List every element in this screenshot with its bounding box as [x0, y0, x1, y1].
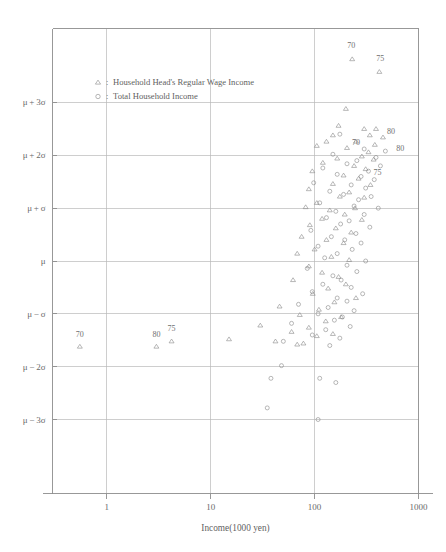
- xtick-label: 1: [105, 502, 110, 512]
- data-point-circle: [374, 155, 378, 159]
- data-point-circle: [326, 306, 330, 310]
- point-annotation: 70: [347, 41, 355, 50]
- point-annotation: 75: [168, 324, 176, 333]
- data-point-circle: [297, 302, 301, 306]
- data-point-circle: [350, 247, 354, 251]
- legend-separator: :: [106, 77, 108, 87]
- data-point-triangle: [336, 275, 341, 279]
- data-point-circle: [335, 252, 339, 256]
- data-point-circle: [321, 282, 325, 286]
- data-point-circle: [362, 147, 366, 151]
- data-point-circle: [349, 183, 353, 187]
- data-point-circle: [335, 172, 339, 176]
- data-point-triangle: [299, 234, 304, 238]
- point-annotation: 70: [352, 138, 360, 147]
- data-point-triangle: [297, 313, 302, 317]
- data-point-triangle: [347, 190, 352, 194]
- data-point-circle: [328, 344, 332, 348]
- data-point-triangle: [332, 300, 337, 304]
- data-point-triangle: [362, 195, 367, 199]
- data-point-triangle: [277, 304, 282, 308]
- data-point-triangle: [335, 156, 340, 160]
- data-point-circle: [338, 336, 342, 340]
- data-point-triangle: [306, 187, 311, 191]
- data-point-triangle: [324, 238, 329, 242]
- data-point-circle: [312, 181, 316, 185]
- data-point-circle: [366, 169, 370, 173]
- ytick-label: μ + 3σ: [23, 97, 46, 107]
- point-annotation: 80: [396, 144, 404, 153]
- data-point-triangle: [323, 319, 328, 323]
- data-point-triangle: [326, 286, 331, 290]
- data-point-circle: [328, 189, 332, 193]
- data-point-circle: [352, 309, 356, 313]
- data-point-triangle: [289, 330, 294, 334]
- data-point-triangle: [314, 144, 319, 148]
- data-point-triangle: [77, 344, 82, 348]
- data-point-circle: [335, 296, 339, 300]
- data-point-triangle: [314, 334, 319, 338]
- data-point-triangle: [169, 339, 174, 343]
- legend-circle-icon: [96, 94, 100, 98]
- data-point-triangle: [258, 323, 263, 327]
- legend-separator: :: [106, 91, 108, 101]
- data-point-circle: [345, 162, 349, 166]
- data-point-circle: [348, 325, 352, 329]
- data-point-circle: [349, 285, 353, 289]
- data-point-triangle: [307, 223, 312, 227]
- data-point-triangle: [316, 307, 321, 311]
- data-point-triangle: [320, 216, 325, 220]
- data-point-triangle: [366, 150, 371, 154]
- legend-label: Household Head's Regular Wage Income: [113, 77, 254, 87]
- data-point-circle: [357, 198, 361, 202]
- data-point-triangle: [350, 57, 355, 61]
- data-point-circle: [310, 333, 314, 337]
- data-point-triangle: [154, 344, 159, 348]
- data-point-triangle: [330, 182, 335, 186]
- legend-triangle-icon: [95, 80, 100, 84]
- data-point-circle: [323, 256, 327, 260]
- data-point-circle: [331, 274, 335, 278]
- data-point-triangle: [343, 282, 348, 286]
- data-point-circle: [359, 174, 363, 178]
- ytick-label: μ + σ: [27, 203, 46, 213]
- data-point-circle: [329, 235, 333, 239]
- plot-canvas: μ + 3σμ + 2σμ + σμμ − σμ − 2σμ − 3σ11010…: [0, 0, 446, 552]
- data-point-triangle: [380, 135, 385, 139]
- point-annotation: 70: [76, 330, 84, 339]
- point-annotation: 75: [373, 168, 381, 177]
- point-annotation: 75: [376, 54, 384, 63]
- data-point-circle: [345, 299, 349, 303]
- data-point-circle: [316, 244, 320, 248]
- data-point-circle: [383, 149, 387, 153]
- data-point-triangle: [327, 208, 332, 212]
- xtick-label: 100: [308, 502, 322, 512]
- data-point-triangle: [345, 146, 350, 150]
- data-point-circle: [334, 381, 338, 385]
- x-axis-title: Income(1000 yen): [201, 523, 269, 534]
- series-total-income: [265, 132, 387, 421]
- data-point-circle: [368, 225, 372, 229]
- point-annotation: 80: [387, 127, 395, 136]
- data-point-triangle: [352, 164, 357, 168]
- data-point-triangle: [273, 339, 278, 343]
- data-point-triangle: [367, 133, 372, 137]
- data-point-circle: [345, 263, 349, 267]
- data-point-circle: [321, 166, 325, 170]
- data-point-circle: [338, 132, 342, 136]
- data-point-circle: [324, 216, 328, 220]
- ytick-label: μ + 2σ: [23, 150, 46, 160]
- data-point-circle: [269, 376, 273, 380]
- data-point-triangle: [301, 341, 306, 345]
- data-point-circle: [290, 321, 294, 325]
- data-point-triangle: [359, 154, 364, 158]
- data-point-circle: [361, 292, 365, 296]
- data-point-circle: [324, 328, 328, 332]
- data-point-triangle: [330, 332, 335, 336]
- data-point-triangle: [330, 133, 335, 137]
- data-point-triangle: [374, 127, 379, 131]
- ytick-label: μ − σ: [27, 309, 46, 319]
- data-point-triangle: [227, 337, 232, 341]
- data-point-circle: [355, 270, 359, 274]
- ytick-label: μ − 2σ: [23, 362, 46, 372]
